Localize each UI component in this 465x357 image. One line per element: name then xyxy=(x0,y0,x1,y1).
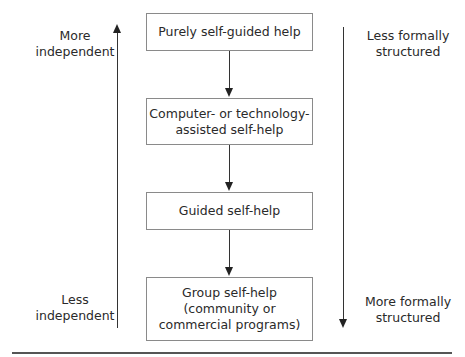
left-axis-line xyxy=(117,32,118,328)
box-technology-assisted: Computer- or technology- assisted self-h… xyxy=(146,98,313,145)
arrow-down-icon xyxy=(225,267,233,276)
connector-3 xyxy=(229,230,230,268)
arrow-down-icon xyxy=(339,319,347,328)
box-guided-self-help: Guided self-help xyxy=(146,192,313,230)
arrow-down-icon xyxy=(225,88,233,97)
box-purely-self-guided: Purely self-guided help xyxy=(146,13,313,51)
box-group-self-help: Group self-help (community or commercial… xyxy=(146,277,313,341)
arrow-up-icon xyxy=(113,24,121,33)
left-bottom-label: Less independent xyxy=(20,292,130,324)
right-axis-line xyxy=(343,27,344,320)
arrow-down-icon xyxy=(225,182,233,191)
connector-1 xyxy=(229,51,230,89)
connector-2 xyxy=(229,145,230,183)
right-top-label: Less formally structured xyxy=(352,28,464,60)
bottom-rule xyxy=(12,352,452,354)
right-bottom-label: More formally structured xyxy=(352,294,464,326)
